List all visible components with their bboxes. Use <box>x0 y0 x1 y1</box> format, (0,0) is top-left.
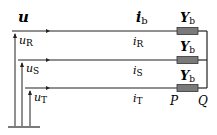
current-header-label: ib <box>136 9 148 26</box>
voltage-label-r: uR <box>19 34 33 48</box>
node-q-label: Q <box>198 94 208 108</box>
current-arrow-s <box>46 58 50 62</box>
current-label-t: iT <box>133 92 143 106</box>
arrow-head-r <box>13 33 17 38</box>
three-phase-circuit-diagram: u ib Yb Yb Yb iR iS iT uR uS uT P Q <box>0 0 217 135</box>
arrow-head-s <box>20 62 24 67</box>
admittance-t <box>177 85 198 92</box>
voltage-label-s: uS <box>26 62 39 76</box>
node-p-label: P <box>169 94 179 108</box>
current-label-r: iR <box>133 35 144 49</box>
current-arrow-r <box>46 29 50 33</box>
arrow-head-t <box>28 90 32 95</box>
voltage-header-label: u <box>18 8 29 26</box>
admittance-s <box>177 57 198 64</box>
current-label-s: iS <box>133 64 143 78</box>
admittance-label-t: Yb <box>180 68 195 84</box>
admittance-label-r: Yb <box>180 10 195 26</box>
admittance-r <box>177 28 198 35</box>
admittance-label-s: Yb <box>180 39 195 55</box>
current-arrow-t <box>46 86 50 90</box>
voltage-label-t: uT <box>34 91 47 105</box>
